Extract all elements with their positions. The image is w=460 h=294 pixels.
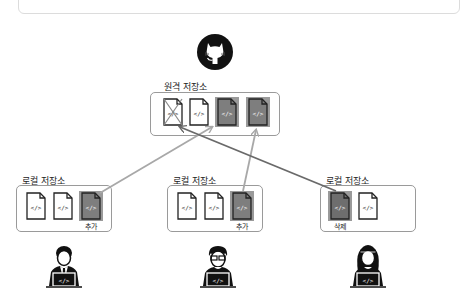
developer-woman-icon: </> [348, 244, 388, 288]
svg-text:</>: </> [363, 204, 374, 211]
svg-text:</>: </> [58, 204, 69, 211]
local-file-added: </> [230, 191, 254, 221]
svg-text:</>: </> [363, 277, 374, 284]
remote-file: </> [188, 98, 210, 126]
local-file: </> [357, 192, 379, 220]
local-file-deleted: </> [328, 191, 352, 221]
svg-text:</>: </> [335, 204, 346, 211]
file-tag-deleted: 삭제 [325, 221, 355, 231]
developer-glasses-icon: </> [198, 244, 238, 288]
svg-text:</>: </> [213, 277, 224, 284]
github-icon [196, 33, 234, 71]
svg-text:</>: </> [194, 110, 205, 117]
remote-file-deleted: </> [162, 98, 184, 126]
svg-text:</>: </> [59, 277, 70, 284]
svg-text:</>: </> [222, 110, 233, 117]
remote-file-added: </> [215, 97, 239, 127]
file-tag-added: 추가 [227, 221, 257, 231]
local-file: </> [25, 192, 47, 220]
file-tag-added: 추가 [76, 221, 106, 231]
local-file-added: </> [79, 191, 103, 221]
svg-text:</>: </> [31, 204, 42, 211]
remote-file-added: </> [246, 97, 270, 127]
svg-text:</>: </> [182, 204, 193, 211]
local-file: </> [203, 192, 225, 220]
svg-text:</>: </> [253, 110, 264, 117]
svg-text:</>: </> [237, 204, 248, 211]
local-file: </> [176, 192, 198, 220]
svg-text:</>: </> [209, 204, 220, 211]
local-file: </> [52, 192, 74, 220]
svg-text:</>: </> [86, 204, 97, 211]
top-frame [18, 0, 460, 14]
developer-man-icon: </> [44, 244, 84, 288]
